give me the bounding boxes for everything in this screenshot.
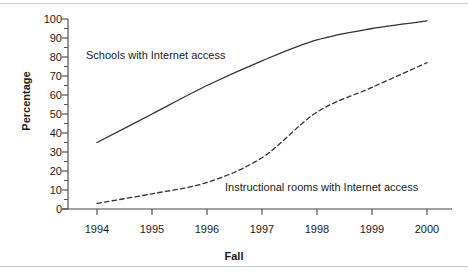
axis-lines bbox=[62, 19, 452, 209]
series-line-instructional-rooms bbox=[97, 63, 427, 204]
series-line-schools bbox=[97, 21, 427, 143]
chart-figure: Percentage Fall 100 90 80 70 60 50 40 30… bbox=[0, 0, 468, 274]
chart-plot-area bbox=[0, 0, 468, 274]
x-axis-ticks bbox=[97, 209, 427, 215]
